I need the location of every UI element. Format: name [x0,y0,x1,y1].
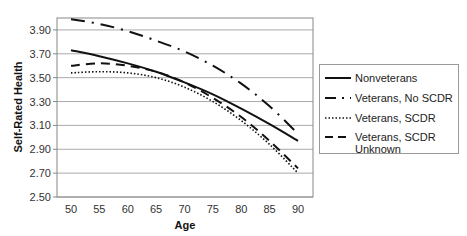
dotted-line-swatch-icon [324,112,352,124]
y-tick-label: 2.70 [30,167,51,179]
y-axis-title: Self-Rated Health [12,61,24,152]
y-axis-ticks: 2.502.702.903.103.303.503.703.90 [30,24,57,203]
dash-dot-line-swatch-icon [324,92,352,104]
series-line-veterans-scdr-unknown [71,63,298,168]
y-tick-label: 2.90 [30,143,51,155]
x-tick-label: 90 [292,203,304,215]
y-tick-label: 2.50 [30,191,51,203]
y-tick-label: 3.50 [30,72,51,84]
series-line-veterans-scdr [71,72,298,173]
data-lines [71,19,298,173]
legend-item-veterans-scdr: Veterans, SCDR [324,112,436,124]
legend: Nonveterans Veterans, No SCDR Veterans, … [319,64,459,154]
x-tick-label: 80 [235,203,247,215]
dashed-line-swatch-icon [324,131,352,143]
x-tick-label: 50 [65,203,77,215]
y-tick-label: 3.30 [30,96,51,108]
plot-area-border [57,18,313,197]
legend-label: Veterans, SCDR [355,112,436,124]
x-tick-label: 55 [93,203,105,215]
x-axis-ticks: 505560657075808590 [65,203,304,215]
y-tick-label: 3.10 [30,119,51,131]
x-tick-label: 75 [207,203,219,215]
legend-item-veterans-scdr-unknown: Veterans, SCDRUnknown [324,131,436,155]
x-axis-title: Age [175,219,196,231]
legend-label: Veterans, No SCDR [355,92,453,104]
y-tick-label: 3.90 [30,24,51,36]
legend-label: Veterans, SCDRUnknown [355,131,436,155]
legend-item-veterans-no-scdr: Veterans, No SCDR [324,92,453,104]
legend-item-nonveterans: Nonveterans [324,72,417,84]
solid-line-swatch-icon [324,72,352,84]
x-tick-label: 70 [178,203,190,215]
x-tick-label: 60 [122,203,134,215]
x-tick-label: 65 [150,203,162,215]
legend-label: Nonveterans [355,72,417,84]
y-tick-label: 3.70 [30,48,51,60]
x-tick-label: 85 [264,203,276,215]
series-line-veterans-no-scdr [71,19,298,134]
